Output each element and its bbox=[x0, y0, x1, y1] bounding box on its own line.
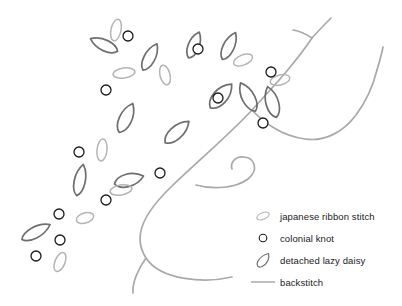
japanese-ribbon-stitch bbox=[75, 210, 95, 225]
japanese-ribbon-stitch bbox=[52, 251, 69, 273]
legend-item-japanese-ribbon-stitch: japanese ribbon stitch bbox=[250, 206, 375, 226]
legend-label: detached lazy daisy bbox=[276, 255, 365, 266]
legend-label: colonial knot bbox=[276, 233, 334, 244]
backstitch-stem bbox=[133, 258, 146, 293]
japanese-ribbon-stitch bbox=[109, 18, 123, 42]
colonial-knot bbox=[54, 209, 64, 219]
japanese-ribbon-stitch bbox=[232, 52, 254, 69]
legend: japanese ribbon stitch colonial knot det… bbox=[250, 206, 400, 298]
japanese-ribbon-stitch bbox=[112, 67, 135, 80]
colonial-knot bbox=[213, 93, 223, 103]
backstitch-stem bbox=[196, 157, 255, 188]
colonial-knot bbox=[31, 251, 41, 261]
colonial-knot bbox=[101, 195, 111, 205]
legend-label: japanese ribbon stitch bbox=[276, 211, 375, 222]
backstitch-stem bbox=[140, 110, 252, 280]
colonial-knot bbox=[55, 235, 65, 245]
lazy-daisy-petal-icon bbox=[250, 250, 276, 270]
detached-lazy-daisy-petal bbox=[88, 34, 120, 57]
colonial-knot bbox=[74, 147, 84, 157]
backstitch-line-icon bbox=[250, 272, 276, 292]
detached-lazy-daisy-petal bbox=[262, 85, 283, 119]
detached-lazy-daisy-petal bbox=[114, 101, 139, 135]
detached-lazy-daisy-petal bbox=[113, 170, 145, 190]
detached-lazy-daisy-petal bbox=[19, 220, 52, 245]
detached-lazy-daisy-petal bbox=[71, 163, 88, 197]
japanese-ribbon-stitch bbox=[109, 183, 132, 197]
backstitch-stem bbox=[312, 18, 331, 38]
legend-item-colonial-knot: colonial knot bbox=[250, 228, 334, 248]
diagram-canvas: japanese ribbon stitch colonial knot det… bbox=[0, 0, 402, 306]
colonial-knot bbox=[123, 31, 133, 41]
backstitch-stem bbox=[377, 47, 383, 70]
colonial-knot-circle-icon bbox=[250, 228, 276, 248]
legend-item-backstitch: backstitch bbox=[250, 272, 323, 292]
colonial-knot bbox=[258, 118, 268, 128]
colonial-knot bbox=[101, 85, 111, 95]
colonial-knot bbox=[193, 44, 203, 54]
ribbon-stitch-ellipse-icon bbox=[250, 206, 276, 226]
japanese-ribbon-stitch bbox=[96, 139, 108, 162]
japanese-ribbon-stitch bbox=[158, 64, 173, 86]
detached-lazy-daisy-petal bbox=[235, 80, 261, 114]
detached-lazy-daisy-petal bbox=[161, 117, 193, 148]
colonial-knot bbox=[155, 168, 165, 178]
colonial-knot bbox=[266, 67, 276, 77]
detached-lazy-daisy-petal bbox=[138, 41, 162, 73]
legend-label: backstitch bbox=[276, 277, 323, 288]
backstitch-stem bbox=[293, 30, 312, 38]
legend-item-detached-lazy-daisy: detached lazy daisy bbox=[250, 250, 365, 270]
